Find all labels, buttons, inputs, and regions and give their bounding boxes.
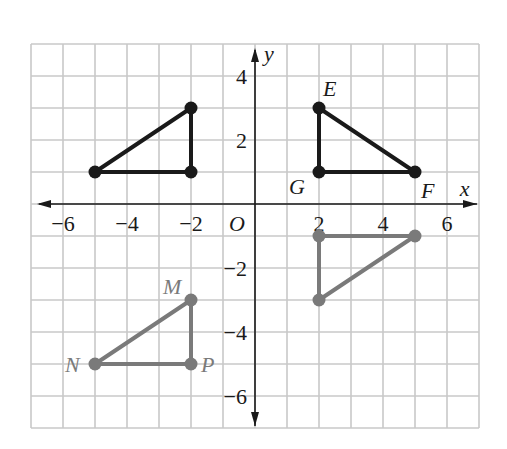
- vertex-point: [313, 166, 326, 179]
- vertex-label-p: P: [200, 352, 214, 377]
- y-tick-label: −4: [224, 320, 247, 345]
- x-tick-label: 4: [378, 211, 389, 236]
- vertex-point: [89, 166, 102, 179]
- tick-labels: −6−4−224642−2−4−6xyO: [51, 41, 470, 409]
- y-axis-arrow-down-icon: [251, 412, 259, 426]
- x-tick-label: −6: [51, 211, 74, 236]
- y-axis-arrow-up-icon: [251, 48, 259, 62]
- vertex-label-f: F: [420, 178, 435, 203]
- y-tick-label: 2: [236, 128, 247, 153]
- coordinate-plane: −6−4−224642−2−4−6xyO EFGMNP: [0, 0, 507, 449]
- vertex-label-g: G: [289, 174, 305, 199]
- x-axis-label: x: [459, 176, 470, 201]
- vertex-point: [313, 294, 326, 307]
- y-tick-label: −2: [224, 256, 247, 281]
- vertex-point: [185, 102, 198, 115]
- y-tick-label: 4: [236, 64, 247, 89]
- y-tick-label: −6: [224, 384, 247, 409]
- x-axis-arrow-right-icon: [463, 200, 477, 208]
- vertex-point: [409, 230, 422, 243]
- vertex-point: [313, 102, 326, 115]
- origin-label: O: [229, 211, 245, 236]
- vertex-point: [185, 294, 198, 307]
- x-tick-label: 6: [442, 211, 453, 236]
- x-tick-label: −2: [179, 211, 202, 236]
- vertex-point: [409, 166, 422, 179]
- vertex-label-n: N: [64, 352, 81, 377]
- vertex-label-e: E: [322, 76, 337, 101]
- vertex-point: [185, 166, 198, 179]
- vertex-point: [185, 358, 198, 371]
- vertex-point: [89, 358, 102, 371]
- vertex-point: [313, 230, 326, 243]
- vertex-label-m: M: [162, 274, 183, 299]
- x-tick-label: −4: [115, 211, 138, 236]
- y-axis-label: y: [262, 41, 274, 66]
- triangle-mnp: MNP: [64, 274, 214, 377]
- x-axis-arrow-left-icon: [37, 200, 51, 208]
